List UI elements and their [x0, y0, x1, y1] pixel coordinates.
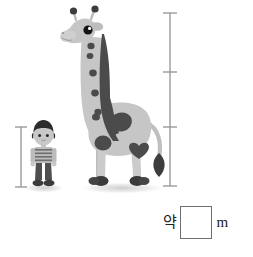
- giraffe-eye-highlight: [88, 27, 91, 30]
- boy-arm-left: [31, 148, 36, 163]
- giraffe-figure: [59, 5, 165, 186]
- boy-eye-right: [46, 134, 49, 137]
- giraffe-spot-neck-2: [87, 53, 94, 59]
- boy-hair-side-right: [54, 133, 56, 139]
- answer-unit-label: m: [215, 215, 229, 230]
- answer-input-box[interactable]: [180, 206, 212, 239]
- giraffe-eye: [83, 25, 92, 34]
- boy-height-ruler: [15, 127, 27, 187]
- giraffe-hoof-front-far: [89, 177, 100, 185]
- giraffe-hoof-back-far: [139, 177, 150, 185]
- boy-hair-side-left: [32, 133, 34, 139]
- giraffe-spot-body-2: [95, 136, 112, 151]
- giraffe-spot-neck-4: [91, 90, 99, 97]
- boy-leg-left: [35, 161, 42, 180]
- boy-leg-right: [45, 161, 52, 180]
- giraffe-nostril: [62, 32, 65, 34]
- giraffe-spot-neck-1: [87, 43, 94, 49]
- answer-row: 약 m: [163, 203, 249, 241]
- boy-shirt-stripe-2: [34, 153, 53, 155]
- boy-figure: [30, 120, 56, 186]
- boy-eye-left: [38, 134, 41, 137]
- giraffe-spot-neck-5: [94, 109, 101, 115]
- giraffe-tail-tuft: [153, 153, 164, 177]
- boy-hand-left: [30, 162, 35, 167]
- boy-hand-right: [52, 162, 57, 167]
- answer-prefix-label: 약: [163, 215, 177, 230]
- giraffe-height-ruler: [163, 13, 177, 186]
- giraffe-ossicone-left-knob: [70, 7, 77, 14]
- giraffe-spot-neck-3: [89, 70, 97, 77]
- boy-shirt-stripe-1: [34, 149, 53, 151]
- boy-shadow: [22, 183, 66, 193]
- boy-shoe-left: [33, 180, 44, 186]
- boy-shirt-stripe-3: [34, 156, 53, 158]
- boy-shoe-right: [44, 180, 55, 186]
- worksheet-illustration-canvas: 약 m: [0, 0, 253, 257]
- boy-arm-right: [52, 148, 57, 163]
- boy-shirt-stripe-4: [34, 160, 53, 162]
- giraffe-ossicone-right-knob: [91, 5, 98, 12]
